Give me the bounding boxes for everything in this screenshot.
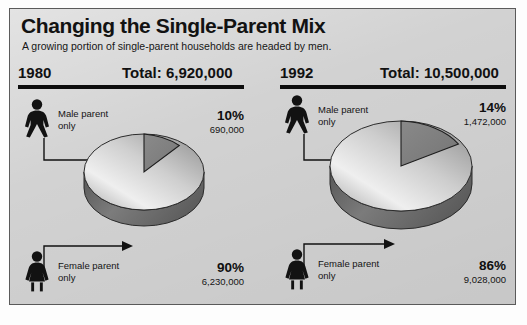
panel-total: Total: 6,920,000 — [122, 64, 233, 81]
male-figure-icon — [282, 94, 312, 134]
female-label-line2: only — [58, 272, 75, 283]
female-count: 9,028,000 — [428, 274, 506, 285]
page-title: Changing the Single-Parent Mix — [21, 14, 325, 38]
panel-1992: 1992 Total: 10,500,000 Male parent only … — [280, 64, 518, 302]
male-label-line2: only — [58, 120, 75, 131]
header-rule — [280, 85, 506, 89]
panel-header-1992: 1992 Total: 10,500,000 — [280, 64, 518, 90]
female-count: 6,230,000 — [168, 276, 244, 287]
pie-chart-1992 — [328, 112, 474, 234]
male-label-line1: Male parent — [58, 108, 108, 119]
pie-chart-1980 — [82, 126, 206, 230]
panel-header-1980: 1980 Total: 6,920,000 — [18, 64, 262, 90]
page-subtitle: A growing portion of single-parent house… — [22, 40, 331, 52]
panel-year: 1992 — [280, 64, 313, 81]
header-rule — [18, 85, 244, 89]
male-percent: 10% — [168, 108, 244, 123]
panel-year: 1980 — [18, 64, 51, 81]
panel-total: Total: 10,500,000 — [380, 64, 499, 81]
female-leader-arrow — [38, 224, 168, 272]
female-percent: 86% — [428, 258, 506, 273]
infographic-root: Changing the Single-Parent Mix A growing… — [0, 0, 527, 325]
male-figure-icon — [22, 98, 52, 138]
female-percent: 90% — [168, 260, 244, 275]
female-leader-arrow — [298, 224, 428, 272]
panel-1980: 1980 Total: 6,920,000 Male parent only 1… — [18, 64, 262, 302]
